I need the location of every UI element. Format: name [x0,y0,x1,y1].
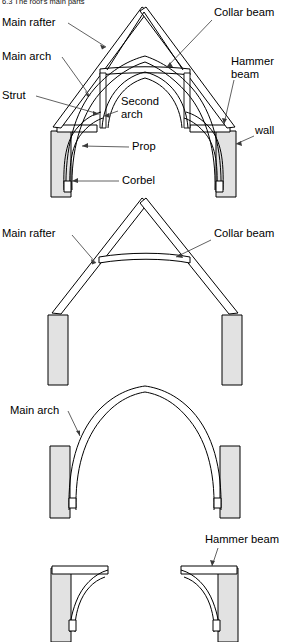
hammer-beam-left-p4 [52,566,108,574]
brace-inner-left-p4 [75,577,105,632]
hammer-beam-right-p4 [181,566,237,574]
wall-left-p2 [48,315,68,385]
label-hammer-beam-p4: Hammer beam [205,533,279,545]
label-wall-p1: wall [254,124,274,136]
panel-full-truss: Main rafter Main arch Strut Collar beam … [2,6,274,197]
panel-main-arch: Main arch [10,386,240,518]
leader-main-rafter-p2 [72,235,96,263]
label-second-arch-p1-line2: arch [121,108,143,120]
brace-inner-right-p4 [184,577,214,632]
corbel-right-p4 [213,620,220,631]
label-prop-p1: Prop [132,140,156,152]
label-main-rafter-p1: Main rafter [2,16,56,28]
corbel-right-p3 [214,498,221,508]
main-arch-inner-p3 [76,392,214,510]
arrowhead-hammer-beam-p4 [210,560,215,566]
leader-hammer-beam-p1 [224,80,234,124]
wall-left-p4 [51,568,71,642]
arrowhead-prop-p1 [82,143,88,148]
panel-rafters-collar: Main rafter Collar beam [2,198,274,385]
collar-beam-p2 [99,253,190,263]
leaders-p3 [68,411,80,436]
arrowhead-main-arch-p3 [76,431,80,437]
label-main-arch-p3: Main arch [10,404,59,416]
leader-prop-p1 [82,146,129,147]
label-strut-p1: Strut [2,89,27,101]
label-second-arch-p1-line1: Second [121,95,159,107]
corbel-left-p4 [69,620,76,631]
main-arch-outer-p3 [69,386,221,510]
label-corbel-p1: Corbel [122,174,155,186]
corbel-left-p3 [69,498,76,508]
arrowhead-wall-p1 [236,141,242,146]
wall-right-p2 [222,315,242,385]
label-hammer-beam-p1-line2: beam [231,68,259,80]
corbel-right-p1 [216,181,223,192]
leaders-p4 [210,548,218,566]
roof-diagram-svg: Main rafter Main arch Strut Collar beam … [0,0,289,642]
wall-right-p3 [220,446,240,518]
label-hammer-beam-p1-line1: Hammer [231,55,274,67]
panel-hammer-beams: Hammer beam [51,533,279,642]
label-main-rafter-p2: Main rafter [2,227,56,239]
wall-left-p3 [50,446,70,518]
figure-caption-text: 6.3 The roof's main parts [2,0,85,6]
arrowhead-collar-beam-p1 [166,62,173,68]
arrowhead-corbel-p1 [72,178,78,183]
label-main-arch-p1: Main arch [2,50,51,62]
label-collar-beam-p1: Collar beam [214,6,274,18]
corbel-left-p1 [64,181,71,192]
leader-main-arch-p1 [62,57,90,96]
figure-caption: 6.3 The roof's main parts [2,0,85,6]
wall-right-p4 [218,568,238,642]
label-collar-beam-p2: Collar beam [214,227,274,239]
leader-main-rafter-p1 [68,23,106,47]
roof-parts-figure: 6.3 The roof's main parts [0,0,289,642]
